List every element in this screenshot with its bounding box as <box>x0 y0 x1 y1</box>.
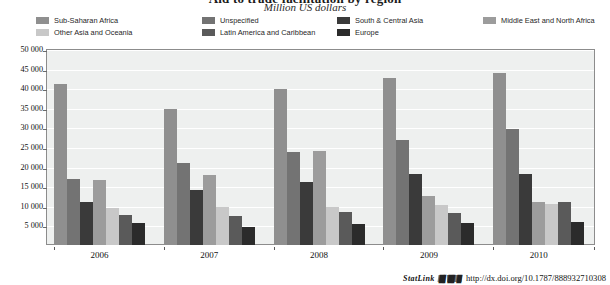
legend-swatch-icon <box>36 29 49 36</box>
bar[interactable] <box>326 207 339 245</box>
y-tick-label: 45 000 <box>1 65 43 74</box>
bar[interactable] <box>203 175 216 245</box>
bar[interactable] <box>54 84 67 245</box>
legend-swatch-icon <box>202 17 215 24</box>
legend-column: UnspecifiedLatin America and Caribbean <box>202 15 315 39</box>
bar[interactable] <box>313 151 326 245</box>
bar[interactable] <box>448 213 461 245</box>
bar[interactable] <box>216 207 229 245</box>
legend-swatch-icon <box>202 29 215 36</box>
bar[interactable] <box>80 202 93 245</box>
bar[interactable] <box>422 196 435 245</box>
bar[interactable] <box>177 163 190 245</box>
x-tick-label: 2007 <box>179 250 239 260</box>
x-tick-mark <box>493 247 494 250</box>
y-tick-label: 30 000 <box>1 123 43 132</box>
legend-swatch-icon <box>483 17 496 24</box>
bar[interactable] <box>67 179 80 245</box>
bar[interactable] <box>519 174 532 245</box>
bar[interactable] <box>571 222 584 245</box>
bar[interactable] <box>493 73 506 245</box>
legend-item-label: Latin America and Caribbean <box>220 28 315 37</box>
bar[interactable] <box>164 109 177 245</box>
bar[interactable] <box>506 129 519 245</box>
legend-column: South & Central AsiaEurope <box>337 15 423 39</box>
bar[interactable] <box>106 208 119 245</box>
bar[interactable] <box>352 224 365 245</box>
bar[interactable] <box>93 180 106 245</box>
bar-group <box>274 49 365 245</box>
legend-item-label: Sub-Saharan Africa <box>54 16 118 25</box>
bar[interactable] <box>132 223 145 245</box>
x-tick-label: 2009 <box>399 250 459 260</box>
bar[interactable] <box>545 204 558 245</box>
y-tick-label: 35 000 <box>1 104 43 113</box>
x-tick-mark <box>164 247 165 250</box>
legend-item[interactable]: Europe <box>337 27 423 38</box>
bar[interactable] <box>461 223 474 245</box>
legend-item[interactable]: Sub-Saharan Africa <box>36 15 132 26</box>
bar[interactable] <box>532 202 545 246</box>
legend-item[interactable]: Unspecified <box>202 15 315 26</box>
y-axis: 50 00045 00040 00035 00030 00025 00020 0… <box>0 49 43 246</box>
legend-swatch-icon <box>337 17 350 24</box>
bar-group <box>54 49 145 245</box>
y-tick-label: 15 000 <box>1 182 43 191</box>
chart-legend: Sub-Saharan AfricaOther Asia and Oceania… <box>36 15 602 37</box>
bar[interactable] <box>300 182 313 245</box>
statlink[interactable]: StatLink █▌█▌█ http://dx.doi.org/10.1787… <box>403 273 606 283</box>
legend-item-label: South & Central Asia <box>355 16 423 25</box>
x-tick-mark <box>383 247 384 250</box>
bar[interactable] <box>383 78 396 245</box>
bar-group <box>383 49 474 245</box>
x-tick-mark-end <box>594 247 595 250</box>
x-tick-mark <box>54 247 55 250</box>
y-tick-label: 25 000 <box>1 143 43 152</box>
bars-layer <box>46 49 595 245</box>
legend-item[interactable]: Latin America and Caribbean <box>202 27 315 38</box>
bar[interactable] <box>190 190 203 245</box>
legend-item[interactable]: Middle East and North Africa <box>483 15 595 26</box>
legend-item[interactable]: Other Asia and Oceania <box>36 27 132 38</box>
legend-item-label: Middle East and North Africa <box>501 16 595 25</box>
bar[interactable] <box>119 215 132 245</box>
barcode-icon: █▌█▌█ <box>437 275 462 282</box>
bar[interactable] <box>435 205 448 245</box>
legend-swatch-icon <box>337 29 350 36</box>
y-tick-label: 20 000 <box>1 163 43 172</box>
bar-group <box>493 49 584 245</box>
y-tick-label: 40 000 <box>1 84 43 93</box>
statlink-url[interactable]: http://dx.doi.org/10.1787/888932710308 <box>466 273 606 283</box>
chart-subtitle: Million US dollars <box>0 1 610 13</box>
legend-column: Middle East and North Africa <box>483 15 595 27</box>
legend-item-label: Europe <box>355 28 379 37</box>
legend-item-label: Other Asia and Oceania <box>54 28 132 37</box>
x-tick-mark <box>274 247 275 250</box>
x-tick-label: 2006 <box>70 250 130 260</box>
bar[interactable] <box>396 140 409 245</box>
legend-swatch-icon <box>36 17 49 24</box>
bar[interactable] <box>287 152 300 245</box>
bar[interactable] <box>339 212 352 245</box>
bar-group <box>164 49 255 245</box>
x-tick-label: 2010 <box>509 250 569 260</box>
y-tick-label: 10 000 <box>1 202 43 211</box>
x-axis: 20062007200820092010 <box>46 247 595 261</box>
bar[interactable] <box>274 89 287 245</box>
statlink-label: StatLink <box>403 274 435 283</box>
bar[interactable] <box>409 174 422 245</box>
y-tick-label: 5 000 <box>1 221 43 230</box>
legend-item[interactable]: South & Central Asia <box>337 15 423 26</box>
chart-page: Aid to trade facilitation by region Mill… <box>0 0 610 285</box>
bar[interactable] <box>229 216 242 245</box>
legend-column: Sub-Saharan AfricaOther Asia and Oceania <box>36 15 132 39</box>
y-tick-label: 50 000 <box>1 45 43 54</box>
legend-item-label: Unspecified <box>220 16 259 25</box>
x-tick-label: 2008 <box>289 250 349 260</box>
bar[interactable] <box>242 227 255 245</box>
bar[interactable] <box>558 202 571 245</box>
